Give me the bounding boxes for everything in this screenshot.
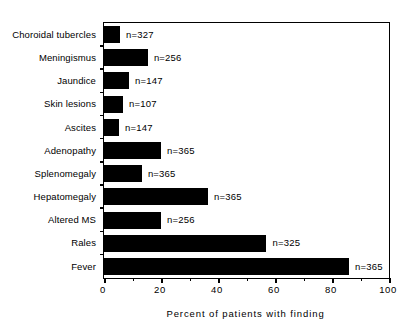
bar-value-label: n=147 bbox=[135, 76, 163, 86]
x-axis-tick-label: 80 bbox=[325, 284, 337, 295]
bar-value-label: n=365 bbox=[214, 192, 242, 202]
plot-area: n=327 n=256 n=147 n=107 n=147 n=365 n=36… bbox=[103, 22, 390, 279]
bar-meningismus bbox=[104, 49, 148, 66]
bar-row: n=107 bbox=[104, 93, 389, 116]
bar-row: n=365 bbox=[104, 255, 389, 278]
bar-chart: Choroidal tubercles Meningismus Jaundice… bbox=[0, 0, 412, 335]
bar-row: n=327 bbox=[104, 23, 389, 46]
bar-row: n=256 bbox=[104, 46, 389, 69]
x-axis-tick bbox=[389, 278, 391, 283]
category-label-meningismus: Meningismus bbox=[39, 53, 96, 63]
bar-row: n=256 bbox=[104, 208, 389, 231]
x-axis-minor-tick bbox=[247, 278, 249, 281]
bar-skin-lesions bbox=[104, 96, 123, 113]
x-axis-tick-label: 20 bbox=[154, 284, 166, 295]
bar-altered-ms bbox=[104, 212, 161, 229]
category-label-rales: Rales bbox=[71, 238, 96, 248]
bar-fever bbox=[104, 258, 349, 275]
bar-value-label: n=256 bbox=[154, 53, 182, 63]
bar-row: n=365 bbox=[104, 162, 389, 185]
category-label-choroidal-tubercles: Choroidal tubercles bbox=[12, 30, 96, 40]
category-label-jaundice: Jaundice bbox=[57, 76, 96, 86]
x-axis-title: Percent of patients with finding bbox=[103, 308, 388, 319]
x-axis-tick-label: 100 bbox=[379, 284, 397, 295]
bar-row: n=147 bbox=[104, 116, 389, 139]
category-label-adenopathy: Adenopathy bbox=[44, 146, 96, 156]
x-axis-tick bbox=[275, 278, 277, 283]
bar-value-label: n=327 bbox=[126, 30, 154, 40]
bar-choroidal-tubercles bbox=[104, 26, 120, 43]
x-axis-tick-label: 40 bbox=[211, 284, 223, 295]
bar-row: n=365 bbox=[104, 185, 389, 208]
bar-value-label: n=365 bbox=[167, 146, 195, 156]
bar-jaundice bbox=[104, 72, 129, 89]
x-axis-minor-tick bbox=[304, 278, 306, 281]
bar-value-label: n=365 bbox=[355, 262, 383, 272]
x-axis-tick-label: 60 bbox=[268, 284, 280, 295]
category-label-splenomegaly: Splenomegaly bbox=[35, 169, 96, 179]
x-axis-tick bbox=[161, 278, 163, 283]
x-axis-minor-tick bbox=[133, 278, 135, 281]
bar-ascites bbox=[104, 119, 119, 136]
category-label-ascites: Ascites bbox=[65, 123, 96, 133]
x-axis-tick bbox=[332, 278, 334, 283]
bar-row: n=325 bbox=[104, 232, 389, 255]
category-label-altered-ms: Altered MS bbox=[48, 215, 96, 225]
bar-rales bbox=[104, 235, 266, 252]
bar-row: n=147 bbox=[104, 69, 389, 92]
bar-value-label: n=256 bbox=[167, 215, 195, 225]
x-axis-tick-label: 0 bbox=[100, 284, 106, 295]
bar-value-label: n=107 bbox=[129, 99, 157, 109]
x-axis-tick bbox=[104, 278, 106, 283]
bar-hepatomegaly bbox=[104, 188, 208, 205]
x-axis-minor-tick bbox=[190, 278, 192, 281]
bar-row: n=365 bbox=[104, 139, 389, 162]
bar-adenopathy bbox=[104, 142, 161, 159]
bar-splenomegaly bbox=[104, 165, 142, 182]
x-axis-minor-tick bbox=[361, 278, 363, 281]
category-label-skin-lesions: Skin lesions bbox=[44, 99, 96, 109]
bar-value-label: n=325 bbox=[272, 238, 300, 248]
x-axis-tick bbox=[218, 278, 220, 283]
bar-value-label: n=365 bbox=[148, 169, 176, 179]
category-label-fever: Fever bbox=[71, 262, 96, 272]
bar-value-label: n=147 bbox=[125, 123, 153, 133]
category-label-hepatomegaly: Hepatomegaly bbox=[34, 192, 96, 202]
